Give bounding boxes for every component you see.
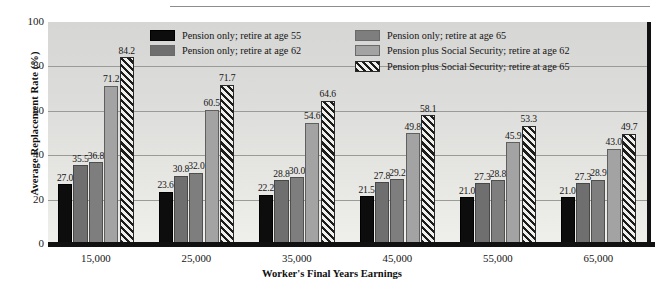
legend-item-label: Pension only; retire at age 55 [182, 30, 301, 41]
bar [576, 183, 590, 244]
bar [390, 179, 404, 244]
bar-cluster: 27.035.536.871.284.2 [58, 22, 134, 244]
bar [159, 192, 173, 244]
bar [305, 123, 319, 244]
legend-swatch-icon [150, 30, 175, 41]
bar [274, 180, 288, 244]
legend-column-right: Pension only; retire at age 65Pension pl… [355, 28, 570, 75]
legend-item[interactable]: Pension only; retire at age 62 [150, 44, 301, 59]
bar [259, 195, 273, 244]
bar [321, 101, 335, 244]
legend-swatch-icon [150, 45, 175, 56]
x-tick-label: 65,000 [548, 252, 648, 264]
legend-swatch-icon [355, 30, 380, 41]
bar [290, 177, 304, 244]
x-tick-label: 25,000 [146, 252, 246, 264]
x-tick-label: 45,000 [347, 252, 447, 264]
y-tick-label: 60 [10, 104, 44, 116]
bar-value-label: 84.2 [112, 45, 142, 56]
bar [591, 180, 605, 244]
chart-legend: Pension only; retire at age 55Pension on… [150, 28, 630, 80]
bar-value-label: 49.7 [614, 121, 644, 132]
bar [421, 115, 435, 244]
bar [189, 173, 203, 244]
y-tick-label: 20 [10, 193, 44, 205]
bar [360, 196, 374, 244]
legend-swatch-icon [355, 45, 380, 56]
x-tick-label: 15,000 [46, 252, 146, 264]
bar [475, 183, 489, 244]
x-tick-label: 35,000 [247, 252, 347, 264]
bar [491, 180, 505, 244]
legend-item[interactable]: Pension plus Social Security; retire at … [355, 59, 570, 74]
legend-swatch-icon [355, 61, 380, 72]
y-tick-label: 100 [10, 15, 44, 27]
bar [406, 133, 420, 244]
legend-item[interactable]: Pension only; retire at age 55 [150, 28, 301, 43]
bar-value-label: 64.6 [313, 88, 343, 99]
y-tick-label: 40 [10, 148, 44, 160]
y-axis-tick-group: 020406080100 [10, 0, 44, 287]
bar [104, 86, 118, 244]
x-axis-line [48, 242, 655, 247]
legend-item-label: Pension plus Social Security; retire at … [387, 45, 570, 56]
y-tick-label: 80 [10, 59, 44, 71]
bar [506, 142, 520, 244]
bar [522, 126, 536, 244]
bar [220, 85, 234, 244]
legend-item-label: Pension only; retire at age 62 [182, 45, 301, 56]
legend-item-label: Pension plus Social Security; retire at … [387, 61, 570, 72]
bar [58, 184, 72, 244]
x-axis-title: Worker's Final Years Earnings [0, 268, 664, 279]
bar [174, 176, 188, 244]
bar [460, 197, 474, 244]
x-tick-label: 55,000 [448, 252, 548, 264]
bar [607, 149, 621, 244]
chart-figure: Average Replacement Rate (%) 02040608010… [0, 0, 664, 287]
bar [89, 162, 103, 244]
bar-value-label: 53.3 [514, 113, 544, 124]
legend-item[interactable]: Pension only; retire at age 65 [355, 28, 570, 43]
bar [73, 165, 87, 244]
top-divider-rule [170, 6, 650, 7]
bar [375, 182, 389, 244]
y-tick-label: 0 [10, 237, 44, 249]
bar [120, 57, 134, 244]
bar-value-label: 58.1 [413, 103, 443, 114]
legend-column-left: Pension only; retire at age 55Pension on… [150, 28, 301, 59]
legend-item-label: Pension only; retire at age 65 [387, 30, 506, 41]
bar [205, 110, 219, 244]
bar [622, 134, 636, 244]
legend-item[interactable]: Pension plus Social Security; retire at … [355, 44, 570, 59]
bar [561, 197, 575, 244]
